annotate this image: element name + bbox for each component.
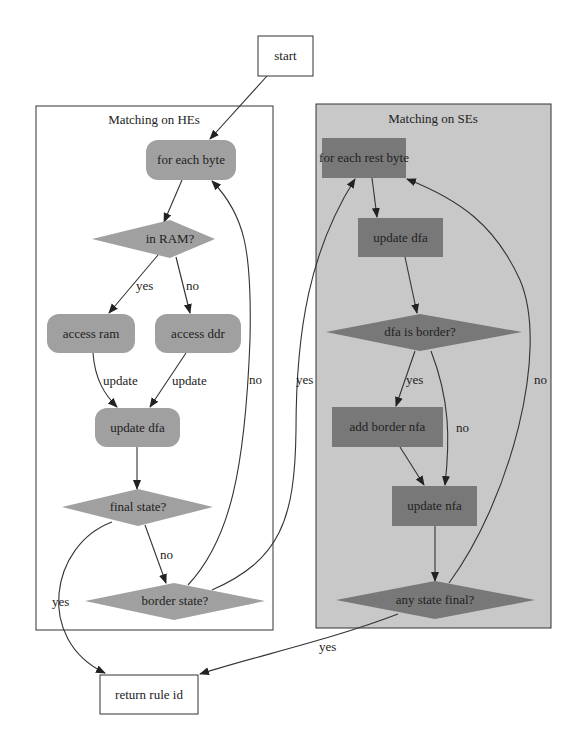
edge-label-dfa-border-no: no [456,420,469,435]
edge-label-in-ram-yes: yes [136,278,153,293]
node-update-dfa-he-label: update dfa [110,420,165,435]
edge-label-border-state-yes: yes [296,372,313,387]
node-in-ram-label: in RAM? [146,231,195,246]
edge-label-any-final-yes: yes [319,639,336,654]
node-any-state-final-label: any state final? [396,592,475,607]
cluster-he-title: Matching on HEs [108,112,200,127]
node-return-rule-id: return rule id [100,675,198,714]
cluster-se: Matching on SEs [316,104,551,628]
edge-label-final-state-no: no [160,547,173,562]
edge-label-ram-update: update [103,373,138,388]
edge-label-any-final-no: no [534,372,547,387]
edge-label-border-state-no: no [249,372,262,387]
node-update-dfa-se: update dfa [358,218,443,257]
node-access-ddr-label: access ddr [171,326,225,341]
node-return-rule-id-label: return rule id [115,687,183,702]
node-final-state-label: final state? [110,499,167,514]
node-for-each-byte: for each byte [146,140,236,180]
node-dfa-is-border-label: dfa is border? [384,324,456,339]
node-start-label: start [274,48,297,63]
edge-label-in-ram-no: no [186,278,199,293]
node-for-each-byte-label: for each byte [157,152,225,167]
node-for-each-rest-byte-label: for each rest byte [319,150,409,165]
node-access-ddr: access ddr [155,314,241,353]
node-update-dfa-se-label: update dfa [373,230,428,245]
node-update-nfa: update nfa [392,486,477,526]
edge-label-final-state-yes: yes [52,594,69,609]
node-add-border-nfa: add border nfa [332,407,443,447]
node-start: start [258,36,313,76]
edge-label-ddr-update: update [172,373,207,388]
node-access-ram-label: access ram [63,326,120,341]
node-for-each-rest-byte: for each rest byte [319,138,409,178]
node-update-dfa-he: update dfa [95,408,180,447]
node-add-border-nfa-label: add border nfa [350,419,426,434]
node-border-state-label: border state? [142,593,209,608]
node-update-nfa-label: update nfa [407,498,462,513]
flowchart: Matching on HEs Matching on SEs yes no u… [0,0,582,750]
edge-label-dfa-border-yes: yes [406,372,423,387]
cluster-se-title: Matching on SEs [388,111,478,126]
node-access-ram: access ram [47,314,135,353]
